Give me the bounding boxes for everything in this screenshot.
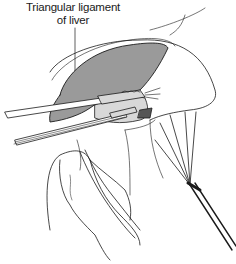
diaphragm-line <box>150 8 205 30</box>
surgical-illustration <box>0 0 236 264</box>
colon <box>47 150 140 260</box>
fan-retractor <box>155 112 236 250</box>
